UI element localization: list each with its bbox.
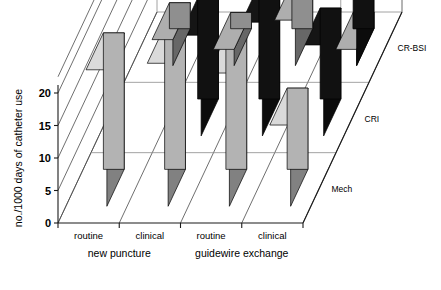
x-group-label-1: guidewire exchange: [195, 247, 289, 259]
x-category-label-3: clinical: [258, 230, 287, 241]
bar-front-face: [231, 12, 252, 28]
three-d-bar-chart: 05101520 routineclinicalroutineclinical …: [0, 0, 441, 290]
bar-front-face: [353, 0, 374, 29]
x-group-label-0: new puncture: [88, 247, 151, 259]
y-tick-label: 0: [45, 217, 51, 229]
bar-front-face: [169, 3, 190, 29]
bar-front-face: [292, 0, 313, 29]
y-tick-label: 20: [39, 87, 51, 99]
depth-axis-label-2: CR-BSI: [398, 43, 427, 53]
bar-front-face: [259, 0, 280, 99]
y-tick-label: 5: [45, 185, 51, 197]
x-category-label-1: clinical: [136, 230, 165, 241]
y-tick-label: 15: [39, 120, 51, 132]
chart-container: 05101520 routineclinicalroutineclinical …: [0, 0, 441, 290]
bar-front-face: [103, 33, 124, 170]
depth-axis-label-1: CRI: [365, 114, 380, 124]
x-category-label-2: routine: [197, 230, 226, 241]
bar-front-face: [287, 88, 308, 169]
y-tick-label: 10: [39, 152, 51, 164]
depth-axis-label-0: Mech: [332, 184, 353, 194]
bar-front-face: [320, 8, 341, 99]
y-axis-title: no./1000 days of catheter use: [12, 89, 24, 228]
x-category-label-0: routine: [74, 230, 103, 241]
